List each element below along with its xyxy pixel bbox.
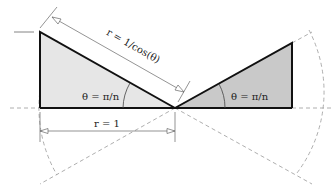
angle-left-label: θ = π/n [82,91,120,102]
hyp-arrow-end [175,85,184,92]
hyp-arrow-start [52,17,61,24]
dashed-line-upper-right [292,32,312,43]
base-arrow-start [40,129,48,134]
arc-right-dashed [297,30,324,173]
base-arrow-end [167,129,175,134]
dashed-line-lower-right [175,108,312,184]
hypotenuse-label: r = 1/cos(θ) [105,26,163,65]
geometry-diagram: r = 1/cos(θ) r = 1 θ = π/n θ = π/n [0,0,331,192]
angle-right-label: θ = π/n [231,91,269,102]
base-label: r = 1 [94,118,120,129]
